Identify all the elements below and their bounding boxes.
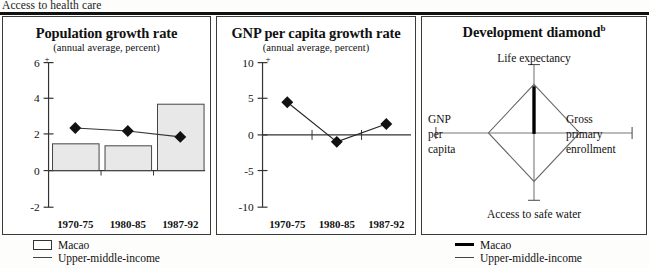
- y-label-neg10: -10: [238, 201, 253, 213]
- legend-row-upper-middle-income: Upper-middle-income: [33, 251, 160, 264]
- legend-swatch-thick-line-icon: [455, 243, 474, 246]
- macao-marker-2: [331, 136, 343, 148]
- legend-label-upper-middle-income: Upper-middle-income: [58, 252, 160, 264]
- legend-right: Macao Upper-middle-income: [455, 238, 582, 264]
- chart-panel-population-growth: Population growth rate (annual average, …: [2, 16, 211, 235]
- diamond-label-right-line3: enrollment: [566, 143, 616, 155]
- legend-left: Macao Upper-middle-income: [33, 238, 160, 264]
- diamond-label-right-line1: Gross: [566, 113, 593, 125]
- header-rule: [0, 12, 649, 15]
- legend-row-macao: Macao: [33, 238, 160, 251]
- diamond-label-top: Life expectancy: [422, 51, 646, 66]
- diamond-label-bottom: Access to safe water: [422, 207, 646, 222]
- diamond-label-right: Gross primary enrollment: [566, 112, 642, 157]
- y-label-6: 6: [34, 57, 40, 69]
- y-label-neg5: -5: [244, 165, 254, 177]
- y-label-plus: +: [266, 54, 271, 64]
- y-label-4: 4: [34, 92, 40, 104]
- diamond-label-bottom-text: Access to safe water: [487, 208, 581, 220]
- y-label-10: 10: [242, 57, 254, 69]
- population-growth-plot: 6 + 4 2 0 -2 1970-75 1980-85 1987-92: [3, 17, 210, 234]
- y-label-plus: +: [45, 54, 50, 64]
- legend-swatch-box-icon: [33, 240, 52, 250]
- bar-1970-75: [53, 144, 100, 171]
- legend-label-upper-middle-income-diamond: Upper-middle-income: [480, 252, 582, 264]
- gnp-growth-plot: 10 + 5 0 -5 -10 1970-75 1980-85 1987-92: [217, 17, 415, 234]
- diamond-label-right-line2: primary: [566, 128, 602, 140]
- macao-line: [287, 102, 386, 142]
- umi-marker-2: [122, 125, 134, 137]
- x-label-1980-85: 1980-85: [110, 218, 147, 230]
- chart-panel-development-diamond: Development diamondb Life expectancy Acc…: [421, 16, 647, 235]
- legend-swatch-line-icon-2: [455, 257, 474, 258]
- x-label-1980-85: 1980-85: [319, 218, 356, 230]
- y-label-0: 0: [248, 129, 254, 141]
- bar-1980-85: [105, 146, 152, 171]
- x-label-1987-92: 1987-92: [162, 218, 198, 230]
- legend-swatch-line-icon: [33, 257, 52, 258]
- chart-panel-gnp-growth: GNP per capita growth rate (annual avera…: [216, 16, 416, 235]
- diamond-label-left-line3: capita: [428, 143, 455, 155]
- x-label-1970-75: 1970-75: [57, 218, 94, 230]
- diamond-label-left-line1: GNP: [428, 113, 451, 125]
- umi-marker-1: [69, 122, 81, 134]
- diamond-label-left: GNP per capita: [428, 112, 476, 157]
- legend-label-macao: Macao: [58, 239, 89, 251]
- top-caption: Access to health care: [2, 0, 101, 11]
- y-label-5: 5: [248, 92, 254, 104]
- x-label-1987-92: 1987-92: [368, 218, 404, 230]
- legend-label-macao-diamond: Macao: [480, 239, 511, 251]
- y-label-0: 0: [34, 165, 40, 177]
- x-label-1970-75: 1970-75: [269, 218, 306, 230]
- macao-marker-1: [281, 96, 293, 108]
- diamond-label-left-line2: per: [428, 128, 443, 140]
- y-label-neg2: -2: [30, 201, 40, 213]
- macao-marker-3: [380, 118, 392, 130]
- legend-row-upper-middle-income-diamond: Upper-middle-income: [455, 251, 582, 264]
- legend-row-macao-diamond: Macao: [455, 238, 582, 251]
- y-label-2: 2: [34, 128, 40, 140]
- diamond-label-top-text: Life expectancy: [497, 52, 571, 64]
